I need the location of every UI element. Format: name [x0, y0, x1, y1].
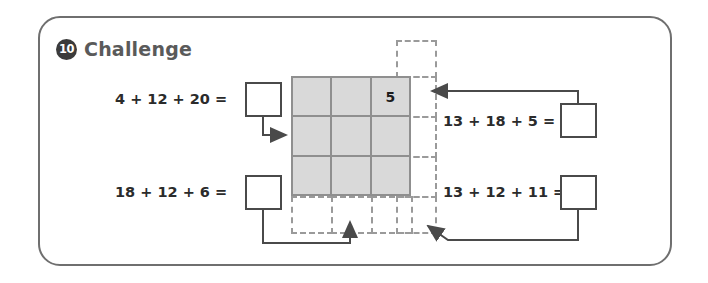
dashed-cell-bottom-col1 [291, 196, 333, 234]
grid-cell-r3c3[interactable] [372, 157, 409, 194]
equation-bottom-left: 18 + 12 + 6 = [115, 184, 227, 200]
exercise-number-badge: 10 [56, 39, 77, 60]
challenge-header: 10 Challenge [56, 38, 192, 60]
answer-box-top-left[interactable] [245, 82, 282, 117]
number-grid: 5 [291, 76, 411, 196]
dashed-cell-bottom-col2 [331, 196, 373, 234]
answer-box-bottom-right[interactable] [560, 175, 597, 210]
worksheet-page: 10 Challenge 5 4 + 12 + 20 = 18 + 12 + 6… [0, 0, 708, 283]
answer-box-bottom-left[interactable] [245, 175, 282, 210]
grid-cell-r3c1[interactable] [293, 157, 330, 194]
grid-cell-r1c3[interactable]: 5 [372, 78, 409, 115]
grid-cell-r1c1[interactable] [293, 78, 330, 115]
equation-bottom-right: 13 + 12 + 11 = [443, 184, 565, 200]
grid-cell-r2c2[interactable] [332, 117, 369, 154]
grid-cell-r3c2[interactable] [332, 157, 369, 194]
page-title: Challenge [84, 38, 192, 60]
equation-top-left: 4 + 12 + 20 = [115, 91, 227, 107]
dashed-cell-top-extra [396, 40, 437, 78]
grid-cell-r2c1[interactable] [293, 117, 330, 154]
grid-cell-r2c3[interactable] [372, 117, 409, 154]
dashed-cell-bottom-right [396, 196, 437, 234]
answer-box-top-right[interactable] [560, 103, 597, 138]
grid-cell-r1c2[interactable] [332, 78, 369, 115]
equation-top-right: 13 + 18 + 5 = [443, 113, 555, 129]
